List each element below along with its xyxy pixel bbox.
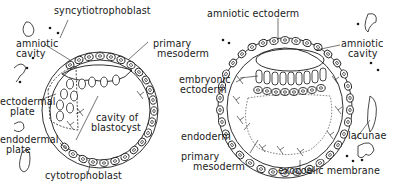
label-primary-mesoderm-left-2: mesoderm [157, 49, 209, 59]
label-amniotic-cavity-right-2: cavity [348, 49, 378, 59]
label-syncytiotrophoblast: syncytiotrophoblast [54, 6, 151, 16]
label-exocoelic-membrane: exocoelic membrane [278, 166, 380, 176]
label-embryonic-ectoderm-2: ectoderm [180, 85, 227, 95]
label-amniotic-ectoderm: amniotic ectoderm [207, 9, 299, 19]
label-endodermal-plate-2: plate [6, 145, 31, 155]
embryo-diagram: syncytiotrophoblast amniotic cavity prim… [0, 0, 397, 191]
label-lacunae: lacunae [348, 131, 386, 141]
label-endoderm: endoderm [181, 132, 231, 142]
label-primary-mesoderm-right-2: mesoderm [193, 162, 245, 172]
label-cavity-of-blastocyst-2: blastocyst [91, 123, 141, 133]
label-amniotic-cavity-left-2: cavity [16, 49, 46, 59]
label-ectodermal-plate-2: plate [10, 107, 35, 117]
label-cytotrophoblast: cytotrophoblast [45, 171, 122, 181]
